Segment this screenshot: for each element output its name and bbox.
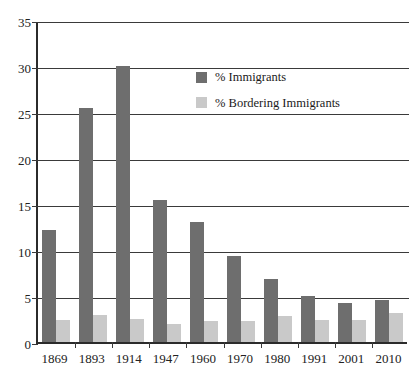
y-tick-mark — [32, 298, 38, 299]
y-tick-label: 5 — [25, 292, 32, 305]
y-tick-label: 20 — [18, 154, 31, 167]
x-tick-label: 1960 — [190, 352, 216, 365]
legend-label-immigrants: % Immigrants — [215, 71, 286, 84]
x-tick-mark — [224, 342, 225, 348]
bar — [315, 320, 329, 342]
legend-label-bordering-immigrants: % Bordering Immigrants — [215, 97, 340, 110]
x-tick-label: 1980 — [264, 352, 290, 365]
gridline — [38, 252, 409, 253]
bar — [352, 320, 366, 342]
bar — [116, 66, 130, 342]
chart-legend: % Immigrants % Bordering Immigrants — [196, 71, 340, 122]
y-tick-label: 0 — [25, 338, 32, 351]
x-tick-mark — [75, 342, 76, 348]
gridline — [38, 298, 409, 299]
bar — [375, 300, 389, 342]
x-tick-mark — [186, 342, 187, 348]
x-tick-mark — [335, 342, 336, 348]
x-tick-label: 2001 — [338, 352, 364, 365]
y-tick-label: 15 — [18, 200, 31, 213]
y-tick-mark — [32, 344, 38, 345]
bar — [204, 321, 218, 342]
bar — [338, 303, 352, 342]
bar — [190, 222, 204, 342]
y-tick-label: 10 — [18, 246, 31, 259]
y-tick-mark — [32, 22, 38, 23]
x-tick-mark — [112, 342, 113, 348]
bar — [167, 324, 181, 342]
x-tick-mark — [261, 342, 262, 348]
y-tick-label: 35 — [18, 16, 31, 29]
gridline — [38, 160, 409, 161]
x-tick-mark — [372, 342, 373, 348]
legend-item: % Immigrants — [196, 71, 340, 84]
y-tick-mark — [32, 206, 38, 207]
bar-chart: 05101520253035 1869189319141947196019701… — [0, 0, 416, 385]
gridline — [38, 206, 409, 207]
bar — [56, 320, 70, 342]
bar — [278, 316, 292, 342]
x-tick-label: 1947 — [153, 352, 179, 365]
x-tick-mark — [149, 342, 150, 348]
bar — [130, 319, 144, 342]
bar — [264, 279, 278, 342]
y-tick-mark — [32, 160, 38, 161]
x-tick-label: 1893 — [79, 352, 105, 365]
x-tick-mark — [298, 342, 299, 348]
x-tick-label: 1991 — [301, 352, 327, 365]
bar — [42, 230, 56, 342]
bar — [153, 200, 167, 342]
x-tick-label: 1869 — [42, 352, 68, 365]
bar — [389, 313, 403, 342]
bar — [241, 321, 255, 342]
y-tick-mark — [32, 68, 38, 69]
legend-swatch-immigrants — [196, 72, 207, 83]
legend-item: % Bordering Immigrants — [196, 97, 340, 110]
bar — [301, 296, 315, 342]
bar — [227, 256, 241, 342]
bar — [93, 315, 107, 342]
gridline — [38, 68, 409, 69]
y-tick-mark — [32, 114, 38, 115]
x-tick-label: 1970 — [227, 352, 253, 365]
bar — [79, 108, 93, 342]
gridline — [38, 22, 409, 23]
x-tick-label: 2010 — [375, 352, 401, 365]
y-tick-label: 25 — [18, 108, 31, 121]
x-tick-label: 1914 — [116, 352, 142, 365]
y-tick-label: 30 — [18, 62, 31, 75]
legend-swatch-bordering-immigrants — [196, 97, 207, 108]
y-tick-mark — [32, 252, 38, 253]
